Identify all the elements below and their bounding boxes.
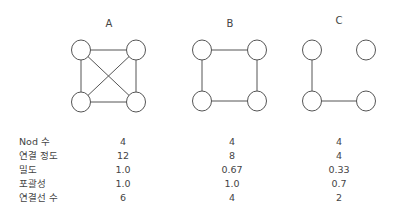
cell-c-density: 0.33 xyxy=(328,164,349,176)
row-label-edge-count: 연결선 수 xyxy=(19,192,58,204)
cell-a-density: 1.0 xyxy=(115,164,130,176)
graph-c-label: C xyxy=(336,15,343,27)
graph-c-node xyxy=(357,91,376,111)
graph-c-node xyxy=(303,91,322,111)
cell-b-edge-count: 4 xyxy=(229,192,235,204)
cell-c-node-count: 4 xyxy=(336,136,342,148)
graph-a-label: A xyxy=(106,18,113,30)
graph-a-node xyxy=(127,40,146,60)
graph-b-node xyxy=(248,40,267,60)
cell-c-inclusiveness: 0.7 xyxy=(331,178,346,190)
row-label-inclusiveness: 포괄성 xyxy=(19,178,46,190)
graph-c-node xyxy=(357,40,376,60)
graph-b-label: B xyxy=(227,18,234,30)
cell-c-degree: 4 xyxy=(336,150,342,162)
cell-b-density: 0.67 xyxy=(221,164,242,176)
graph-b-node xyxy=(193,91,212,111)
cell-a-node-count: 4 xyxy=(120,136,126,148)
cell-b-node-count: 4 xyxy=(229,136,235,148)
graph-a-node xyxy=(72,40,91,60)
cell-c-edge-count: 2 xyxy=(336,192,342,204)
cell-a-degree: 12 xyxy=(117,150,129,162)
row-label-density: 밀도 xyxy=(19,164,37,176)
graph-c-node xyxy=(303,40,322,60)
cell-b-degree: 8 xyxy=(229,150,235,162)
cell-a-inclusiveness: 1.0 xyxy=(115,178,130,190)
row-label-node-count: Nod 수 xyxy=(19,136,50,148)
graph-b-node xyxy=(248,91,267,111)
graph-b-node xyxy=(193,40,212,60)
row-label-degree: 연결 정도 xyxy=(19,150,58,162)
graph-a-node xyxy=(72,92,91,112)
graph-a-node xyxy=(127,92,146,112)
graph-edges xyxy=(81,50,366,102)
cell-b-inclusiveness: 1.0 xyxy=(224,178,239,190)
cell-a-edge-count: 6 xyxy=(120,192,126,204)
